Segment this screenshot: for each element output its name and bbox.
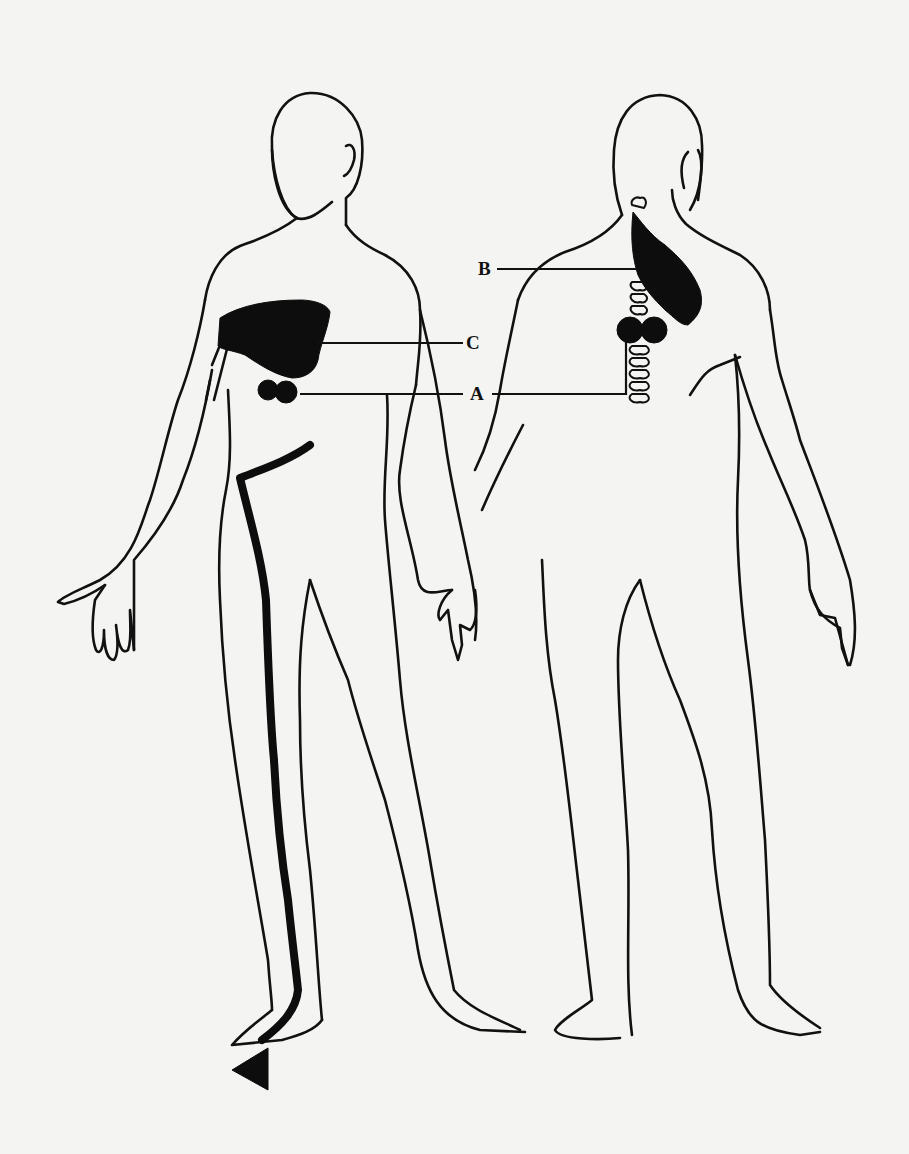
front-right-hand	[439, 590, 477, 660]
label-c: C	[466, 332, 480, 354]
front-left-leg-inner	[299, 580, 322, 1020]
front-torso-right	[384, 395, 520, 1030]
back-left-leg-inner	[618, 580, 640, 1035]
front-left-arm-outer	[58, 300, 205, 604]
front-right-arm-inner	[399, 385, 452, 593]
back-torso-left	[542, 560, 620, 1039]
leader-line-a-back	[492, 340, 626, 394]
front-left-hand-fingers	[93, 585, 134, 660]
front-view-figure	[58, 93, 525, 1090]
back-scapula-line	[690, 357, 740, 395]
anatomy-diagram	[0, 0, 909, 1154]
back-head-outline	[613, 95, 702, 215]
front-shoulder-left	[205, 218, 297, 300]
back-right-leg-inner	[640, 580, 820, 1035]
front-jaw-outline	[272, 150, 332, 219]
referral-arrowhead-icon	[232, 1048, 268, 1090]
front-shoulder-right	[346, 225, 421, 385]
front-ear	[344, 145, 355, 176]
region-a-back-dot-1	[617, 317, 643, 343]
front-torso-left	[219, 390, 272, 1010]
region-a-back-dot-2	[641, 317, 667, 343]
back-shoulder-left	[518, 215, 622, 300]
cervical-vertebra	[632, 197, 646, 208]
label-a: A	[470, 383, 484, 405]
back-view-figure	[475, 95, 855, 1039]
region-a-front-dot-2	[275, 381, 297, 403]
back-right-arm-inner	[735, 355, 848, 665]
front-left-arm-crease	[206, 345, 228, 400]
region-c-chest	[218, 300, 330, 378]
front-right-leg-inner	[310, 580, 525, 1032]
label-b: B	[478, 258, 491, 280]
